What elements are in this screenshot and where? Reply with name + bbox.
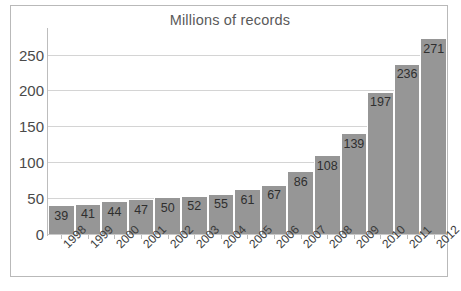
bar-value-label: 61 xyxy=(234,194,261,207)
bar[interactable] xyxy=(367,93,394,234)
bar-value-label: 44 xyxy=(101,206,128,219)
x-tick: 2000 xyxy=(101,235,128,279)
bar-value-label: 55 xyxy=(208,198,235,211)
x-tick: 2001 xyxy=(128,235,155,279)
y-tick-label-100: 100 xyxy=(12,155,44,170)
chart-plot-frame: Millions of records 250200150100500 3941… xyxy=(10,5,448,277)
plot-area: 39414447505255616786108139197236271 xyxy=(48,33,447,234)
bar-slot: 139 xyxy=(341,33,368,234)
x-tick: 2012 xyxy=(420,235,447,279)
bar-slot: 55 xyxy=(208,33,235,234)
y-tick-label-150: 150 xyxy=(12,119,44,134)
y-tick-label-50: 50 xyxy=(12,191,44,206)
bar[interactable] xyxy=(394,65,421,234)
x-tick: 2011 xyxy=(394,235,421,279)
bar-value-label: 197 xyxy=(367,96,394,109)
bar-slot: 52 xyxy=(181,33,208,234)
bar-slot: 86 xyxy=(287,33,314,234)
bar-value-label: 39 xyxy=(48,210,75,223)
x-tick: 2003 xyxy=(181,235,208,279)
x-tick: 2009 xyxy=(341,235,368,279)
y-tick-label-250: 250 xyxy=(12,48,44,63)
bar-value-label: 86 xyxy=(287,176,314,189)
bar-slot: 61 xyxy=(234,33,261,234)
bar-slot: 197 xyxy=(367,33,394,234)
bar-value-label: 67 xyxy=(261,189,288,202)
y-tick-label-0: 0 xyxy=(12,227,44,242)
bar[interactable] xyxy=(420,39,447,234)
x-tick: 2002 xyxy=(154,235,181,279)
bar-slot: 67 xyxy=(261,33,288,234)
bar-value-label: 41 xyxy=(75,208,102,221)
bar-value-label: 236 xyxy=(394,68,421,81)
y-axis-tick-labels: 250200150100500 xyxy=(11,6,44,278)
bar-value-label: 47 xyxy=(128,204,155,217)
x-tick: 2007 xyxy=(287,235,314,279)
x-tick: 1999 xyxy=(75,235,102,279)
bar-slot: 44 xyxy=(101,33,128,234)
bar-slot: 236 xyxy=(394,33,421,234)
bars-group: 39414447505255616786108139197236271 xyxy=(48,33,447,234)
bar-slot: 41 xyxy=(75,33,102,234)
x-axis-tick-labels: 1998199920002001200220032004200520062007… xyxy=(48,235,447,279)
bar-slot: 108 xyxy=(314,33,341,234)
bar-slot: 271 xyxy=(420,33,447,234)
bar-value-label: 108 xyxy=(314,160,341,173)
x-tick: 1998 xyxy=(48,235,75,279)
bar-slot: 39 xyxy=(48,33,75,234)
y-tick-label-200: 200 xyxy=(12,83,44,98)
x-tick: 2010 xyxy=(367,235,394,279)
bar-slot: 50 xyxy=(154,33,181,234)
x-tick: 2005 xyxy=(234,235,261,279)
x-tick: 2006 xyxy=(261,235,288,279)
bar-value-label: 139 xyxy=(341,138,368,151)
bar-value-label: 271 xyxy=(420,43,447,56)
bar-value-label: 52 xyxy=(181,200,208,213)
bar-chart: Millions of records 250200150100500 3941… xyxy=(0,0,461,291)
bar-slot: 47 xyxy=(128,33,155,234)
chart-title: Millions of records xyxy=(11,12,449,28)
bar-value-label: 50 xyxy=(154,202,181,215)
x-tick: 2008 xyxy=(314,235,341,279)
x-tick: 2004 xyxy=(208,235,235,279)
